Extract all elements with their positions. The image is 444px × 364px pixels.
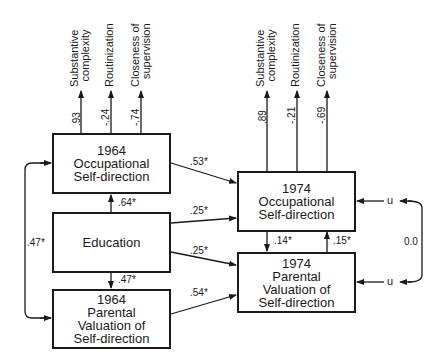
box-line: Self-direction [74,332,150,345]
indicator-label-substantive-complexity-1964: Substantive complexity [69,30,91,87]
coef-par1974-occ1974: .15* [333,235,351,246]
indicator-label-substantive-complexity-1974: Substantive complexity [255,30,277,87]
loading-routinization-1974: -.21 [286,107,297,124]
box-line: Self-direction [259,296,335,309]
box-parental-valuation-1964: 1964 Parental Valuation of Self-directio… [52,289,171,349]
coef-edu-occ1964: .64* [118,197,136,208]
coef-par1964-par1974: .54* [190,287,208,298]
box-parental-valuation-1974: 1974 Parental Valuation of Self-directio… [237,252,356,313]
coef-occ1964-occ1974: .53* [190,156,208,167]
indicator-label-closeness-1964: Closeness of supervision [130,23,152,87]
box-education: Education [52,212,171,273]
box-line: Valuation of [263,283,331,296]
box-line: Self-direction [259,208,335,221]
indicator-label-closeness-1974: Closeness of supervision [316,23,338,87]
indicator-label-routinization-1964: Routinization [104,23,115,87]
indicator-label-routinization-1974: Routinization [290,23,301,87]
coef-occ1974-par1974: .14* [274,235,292,246]
box-line: Education [83,236,141,249]
box-occupational-self-direction-1974: 1974 Occupational Self-direction [237,171,356,232]
coef-edu-occ1974: .25* [190,205,208,216]
coef-edu-par1964: .47* [118,274,136,285]
coef-residual-corr: 0.0 [404,236,418,247]
box-occupational-self-direction-1964: 1964 Occupational Self-direction [52,133,171,194]
box-line: 1974 [282,257,311,270]
loading-substantive-1964: .93 [71,112,82,126]
coef-corr-1964: .47* [27,237,45,248]
coef-edu-par1974: .25* [190,245,208,256]
loading-substantive-1974: .89 [257,110,268,124]
loading-routinization-1964: -.24 [100,109,111,126]
residual-par1974: u [387,275,393,287]
box-line: Self-direction [74,170,150,183]
loading-closeness-1974: -.69 [316,107,327,124]
residual-occ1974: u [387,194,393,206]
loading-closeness-1964: -.74 [130,109,141,126]
box-line: Parental [272,270,320,283]
